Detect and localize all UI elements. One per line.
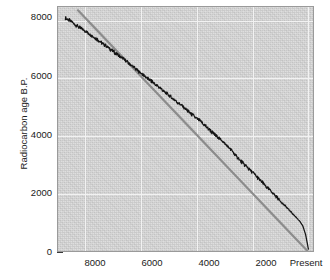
y-tick-label-2000: 2000 <box>14 188 52 198</box>
y-tick-label-0: 0 <box>14 247 52 257</box>
y-tick-label-4000: 4000 <box>14 130 52 140</box>
x-tick-label-4000: 4000 <box>198 258 219 268</box>
x-tick-label-8000: 8000 <box>84 258 105 268</box>
radiocarbon-calibration-chart: Radiocarbon age B.P. 8000 6000 4000 2000… <box>0 0 330 280</box>
x-tick-label-present: Present <box>290 258 323 268</box>
reference-line-1to1 <box>78 10 308 252</box>
curve-layer <box>57 6 314 252</box>
x-tick-label-6000: 6000 <box>141 258 162 268</box>
plot-area <box>57 6 314 252</box>
y-tick-label-6000: 6000 <box>14 71 52 81</box>
x-tick-label-2000: 2000 <box>255 258 276 268</box>
y-tick-label-8000: 8000 <box>14 12 52 22</box>
y-major-tick <box>57 252 63 253</box>
